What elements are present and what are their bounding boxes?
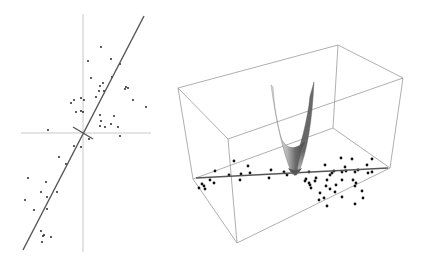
scatter-points-3d	[198, 157, 374, 208]
data-point-3d	[315, 177, 318, 180]
data-point	[40, 191, 42, 193]
data-point-3d	[354, 171, 357, 174]
box-edge	[178, 45, 338, 88]
data-point	[80, 110, 82, 112]
right-3d-plot	[170, 0, 423, 264]
data-point-3d	[314, 180, 317, 183]
data-point-3d	[309, 184, 312, 187]
data-point	[87, 60, 89, 62]
data-point	[58, 156, 60, 158]
data-point-3d	[198, 187, 201, 190]
data-point	[46, 196, 48, 198]
data-point-3d	[213, 182, 216, 185]
data-point-3d	[214, 170, 217, 173]
data-point-3d	[201, 183, 204, 186]
data-point-3d	[249, 172, 252, 175]
data-point-3d	[305, 178, 308, 181]
data-point	[70, 102, 72, 104]
data-point-3d	[344, 166, 347, 169]
data-point	[83, 99, 85, 101]
data-point	[119, 135, 121, 137]
data-point-3d	[233, 160, 236, 163]
data-point-3d	[354, 185, 357, 188]
data-point	[27, 177, 29, 179]
data-point-3d	[329, 174, 332, 177]
data-point-3d	[340, 157, 343, 160]
data-point-3d	[352, 179, 355, 182]
data-point	[98, 90, 100, 92]
data-point-3d	[247, 165, 250, 168]
data-point	[113, 115, 115, 117]
data-point	[80, 97, 82, 99]
data-point-3d	[310, 187, 313, 190]
data-point-3d	[268, 177, 271, 180]
data-point	[99, 114, 101, 116]
v-surface	[271, 82, 314, 175]
data-point	[110, 58, 112, 60]
data-point-3d	[203, 185, 206, 188]
data-point	[24, 199, 26, 201]
data-point	[56, 191, 58, 193]
data-point-3d	[239, 179, 242, 182]
data-point	[82, 111, 84, 113]
data-point-3d	[371, 158, 374, 161]
data-point-3d	[341, 179, 344, 182]
box-edge	[228, 139, 237, 243]
data-point-3d	[362, 197, 365, 200]
data-point-3d	[326, 205, 329, 208]
data-point-3d	[326, 179, 329, 182]
data-point	[117, 126, 119, 128]
data-point-3d	[366, 164, 369, 167]
data-point	[99, 85, 101, 87]
data-point	[100, 120, 102, 122]
data-point-3d	[329, 188, 332, 191]
data-point-3d	[318, 199, 321, 202]
data-point	[73, 99, 75, 101]
data-point	[45, 181, 47, 183]
data-point-3d	[351, 158, 354, 161]
box-edge	[333, 45, 338, 128]
data-point-3d	[367, 172, 370, 175]
data-point-3d	[325, 185, 328, 188]
data-point	[47, 129, 49, 131]
data-point-3d	[323, 197, 326, 200]
data-point-3d	[341, 196, 344, 199]
right-plot-canvas	[170, 0, 423, 264]
data-point	[124, 88, 126, 90]
data-point	[90, 77, 92, 79]
data-point	[50, 236, 52, 238]
data-point	[102, 82, 104, 84]
data-point	[75, 111, 77, 113]
data-point	[88, 138, 90, 140]
box-edge	[178, 88, 193, 179]
data-point-3d	[324, 164, 327, 167]
data-point	[127, 87, 129, 89]
data-point	[40, 230, 42, 232]
data-point-3d	[270, 169, 273, 172]
data-point	[145, 106, 147, 108]
data-point-3d	[371, 171, 374, 174]
box-edge	[333, 128, 390, 168]
left-plot-canvas	[0, 0, 170, 264]
box-edge	[228, 78, 403, 139]
data-point	[132, 99, 134, 101]
data-point-3d	[361, 190, 364, 193]
data-point	[33, 209, 35, 211]
left-scatter-plot	[0, 0, 170, 264]
data-point	[73, 145, 75, 147]
data-point	[95, 96, 97, 98]
data-point	[125, 86, 127, 88]
data-point-3d	[331, 172, 334, 175]
bounding-box	[178, 45, 403, 243]
data-point-3d	[335, 184, 338, 187]
data-point	[46, 208, 48, 210]
data-point-3d	[354, 203, 357, 206]
data-point	[104, 126, 106, 128]
data-point	[41, 241, 43, 243]
data-point-3d	[319, 192, 322, 195]
data-point	[42, 235, 44, 237]
data-point-3d	[209, 179, 212, 182]
data-point-3d	[334, 191, 337, 194]
data-point	[100, 46, 102, 48]
box-edge	[237, 168, 390, 243]
